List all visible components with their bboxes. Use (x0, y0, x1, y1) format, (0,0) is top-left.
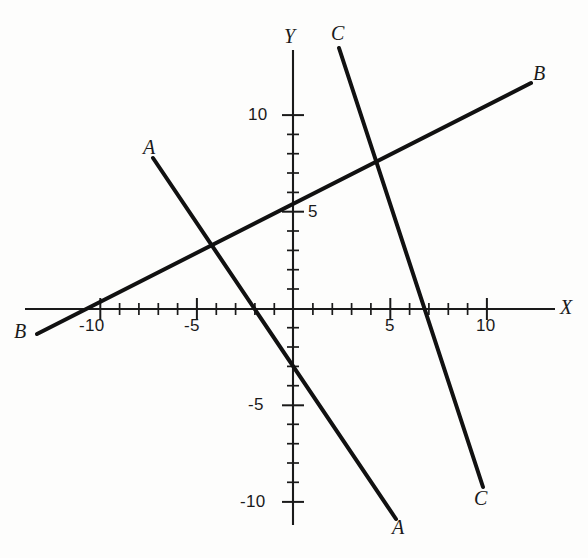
line-b-label-end: B (533, 62, 545, 85)
y-tick-label-5: 5 (308, 202, 318, 222)
y-tick-label-neg5: -5 (248, 395, 264, 415)
x-axis-label: X (560, 296, 572, 319)
x-tick-label-neg5: -5 (184, 316, 200, 336)
coordinate-plane-figure: Y X -10 -5 5 10 10 5 -5 -10 A A B B C C (0, 0, 588, 558)
line-c-label-end: C (474, 487, 487, 510)
line-c-label-start: C (331, 22, 344, 45)
line-a-label-end: A (392, 516, 404, 539)
y-tick-label-10: 10 (248, 105, 268, 125)
x-tick-label-neg10: -10 (79, 316, 104, 336)
line-b-label-start: B (14, 320, 26, 343)
plot-canvas (0, 0, 588, 558)
line-a-label-start: A (143, 136, 155, 159)
x-tick-label-5: 5 (385, 316, 395, 336)
line-b (37, 83, 531, 334)
line-c (339, 48, 483, 487)
y-axis-label: Y (284, 25, 295, 48)
y-tick-label-neg10: -10 (240, 492, 265, 512)
x-tick-label-10: 10 (476, 316, 496, 336)
